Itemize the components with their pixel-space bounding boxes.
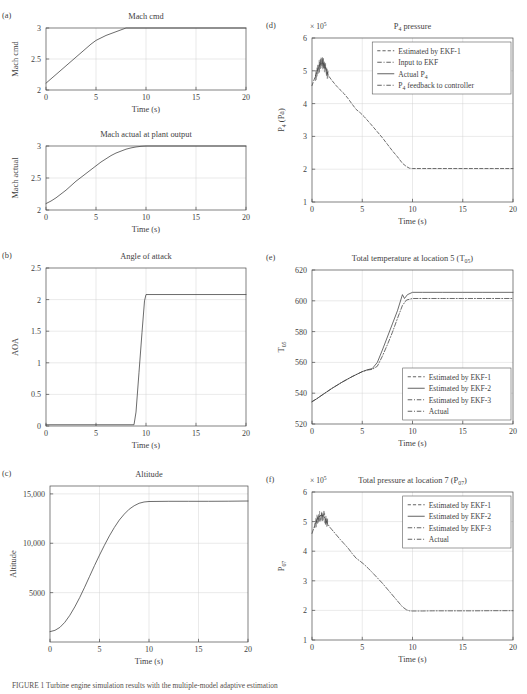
x-tick-label: 20	[242, 213, 250, 222]
y-tick-label: 560	[295, 358, 307, 367]
x-tick-label: 15	[195, 645, 203, 654]
legend-label: Estimated by EKF-2	[429, 512, 492, 521]
x-tick-label: 0	[44, 213, 48, 222]
chart-title-b: Angle of attack	[120, 252, 172, 261]
axis-exponent-d: × 105	[310, 21, 327, 31]
y-tick-label: 0.5	[31, 390, 41, 399]
y-tick-label: 0	[37, 422, 41, 431]
y-tick-label: 4	[303, 547, 307, 556]
y-tick-label: 2	[303, 606, 307, 615]
panel-id-label-a1: (a)	[2, 11, 12, 20]
chart-panel-e: (e)Total temperature at location 5 (T05)…	[264, 242, 527, 464]
y-tick-label: 2	[37, 296, 41, 305]
x-tick-label: 15	[192, 429, 200, 438]
y-tick-label: 1.5	[31, 327, 41, 336]
x-tick-label: 10	[142, 429, 150, 438]
y-tick-label: 2	[303, 165, 307, 174]
y-tick-label: 520	[295, 420, 307, 429]
y-axis-label-d: P4 (Pa)	[277, 108, 287, 132]
y-axis-label-e: T05	[277, 341, 287, 352]
y-axis-label-a1: Mach cmd	[11, 40, 20, 76]
y-tick-label: 2.5	[31, 55, 41, 64]
y-tick-label: 3	[37, 24, 41, 33]
x-tick-label: 0	[44, 93, 48, 102]
x-tick-label: 10	[142, 213, 150, 222]
x-tick-label: 20	[509, 643, 517, 652]
x-tick-label: 5	[94, 93, 98, 102]
y-tick-label: 3	[303, 577, 307, 586]
legend-label: Input to EKF	[398, 58, 438, 67]
chart-title-c: Altitude	[135, 470, 163, 479]
y-tick-label: 10,000	[23, 539, 45, 548]
x-tick-label: 0	[44, 429, 48, 438]
x-tick-label: 5	[98, 645, 102, 654]
chart-title-a2: Mach actual at plant output	[100, 130, 192, 139]
chart-panel-a1: (a)Mach cmd0510152022.53Time (s)Mach cmd	[0, 4, 262, 124]
legend-label: Estimated by EKF-1	[429, 501, 492, 510]
panel-id-label-d: (d)	[266, 21, 276, 30]
y-axis-label-f: P07	[277, 561, 287, 572]
measurement-noise-band-f	[315, 511, 328, 528]
x-axis-label-f: Time (s)	[398, 655, 427, 664]
chart-panel-f: (f)Total pressure at location 7 (P07)× 1…	[264, 458, 527, 682]
x-tick-label: 20	[509, 205, 517, 214]
y-axis-label-b: AOA	[11, 338, 20, 356]
x-tick-label: 0	[310, 427, 314, 436]
figure-panel-grid: (a)Mach cmd0510152022.53Time (s)Mach cmd…	[0, 0, 527, 694]
y-tick-label: 5	[303, 67, 307, 76]
x-tick-label: 15	[459, 643, 467, 652]
y-tick-label: 580	[295, 328, 307, 337]
y-axis-label-a2: Mach actual	[11, 157, 20, 199]
x-tick-label: 10	[142, 93, 150, 102]
x-tick-label: 5	[360, 205, 364, 214]
legend-label: Actual	[429, 407, 449, 416]
chart-title-e: Total temperature at location 5 (T05)	[352, 254, 473, 264]
legend-label: Estimated by EKF-3	[429, 524, 492, 533]
axis-exponent-f: × 105	[310, 475, 327, 485]
y-tick-label: 2.5	[31, 174, 41, 183]
x-tick-label: 15	[459, 205, 467, 214]
x-tick-label: 15	[459, 427, 467, 436]
y-tick-label: 1	[37, 359, 41, 368]
chart-panel-a2: Mach actual at plant output0510152022.53…	[0, 120, 262, 244]
y-tick-label: 3	[303, 132, 307, 141]
x-tick-label: 0	[310, 205, 314, 214]
x-tick-label: 0	[48, 645, 52, 654]
y-tick-label: 5000	[29, 589, 45, 598]
chart-panel-b: (b)Angle of attack0510152000.511.522.5Ti…	[0, 242, 262, 464]
x-tick-label: 10	[409, 643, 417, 652]
y-tick-label: 4	[303, 100, 307, 109]
y-tick-label: 620	[295, 266, 307, 275]
x-tick-label: 15	[192, 213, 200, 222]
legend-label: Actual P4	[398, 70, 427, 80]
y-tick-label: 2.5	[31, 264, 41, 273]
chart-title-d: P4 pressure	[394, 22, 432, 32]
y-axis-label-c: Altitude	[9, 550, 18, 578]
legend-label: Actual	[429, 535, 449, 544]
y-tick-label: 15,000	[23, 490, 45, 499]
y-tick-label: 5	[303, 518, 307, 527]
y-tick-label: 6	[303, 34, 307, 43]
x-axis-label-e: Time (s)	[398, 439, 427, 448]
x-tick-label: 5	[94, 429, 98, 438]
x-tick-label: 10	[145, 645, 153, 654]
figure-caption: FIGURE 1 Turbine engine simulation resul…	[12, 681, 517, 691]
x-tick-label: 0	[310, 643, 314, 652]
x-tick-label: 5	[360, 643, 364, 652]
chart-panel-d: (d)P4 pressure× 10505101520123456Time (s…	[264, 4, 527, 244]
panel-id-label-f: (f)	[266, 475, 275, 484]
y-tick-label: 6	[303, 488, 307, 497]
x-axis-label-c: Time (s)	[135, 657, 164, 666]
x-tick-label: 20	[244, 645, 252, 654]
legend-label: Estimated by EKF-2	[429, 384, 492, 393]
x-tick-label: 15	[192, 93, 200, 102]
chart-title-f: Total pressure at location 7 (P07)	[358, 476, 467, 486]
chart-title-a1: Mach cmd	[128, 12, 164, 21]
x-tick-label: 5	[94, 213, 98, 222]
y-tick-label: 600	[295, 297, 307, 306]
legend-label: Estimated by EKF-1	[398, 47, 461, 56]
x-tick-label: 5	[360, 427, 364, 436]
x-axis-label-d: Time (s)	[398, 217, 427, 226]
x-axis-label-a1: Time (s)	[132, 105, 161, 114]
panel-id-label-b: (b)	[2, 251, 12, 260]
